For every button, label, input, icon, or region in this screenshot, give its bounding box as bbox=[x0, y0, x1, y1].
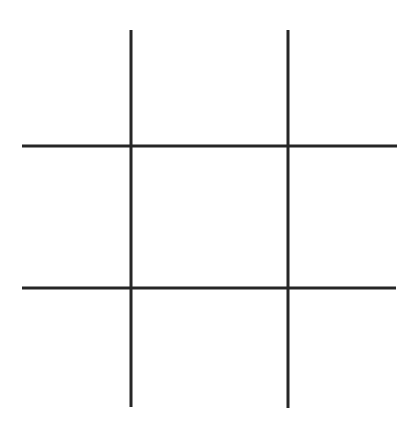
tic-tac-toe-board bbox=[0, 0, 414, 429]
cell-middle-center[interactable] bbox=[131, 146, 288, 288]
cell-bottom-right[interactable] bbox=[288, 288, 397, 408]
cell-bottom-center[interactable] bbox=[131, 288, 288, 408]
cell-middle-right[interactable] bbox=[288, 146, 397, 288]
cell-top-center[interactable] bbox=[131, 30, 288, 146]
cell-middle-left[interactable] bbox=[22, 146, 131, 288]
cell-bottom-left[interactable] bbox=[22, 288, 131, 408]
cell-top-right[interactable] bbox=[288, 30, 397, 146]
cell-top-left[interactable] bbox=[22, 30, 131, 146]
